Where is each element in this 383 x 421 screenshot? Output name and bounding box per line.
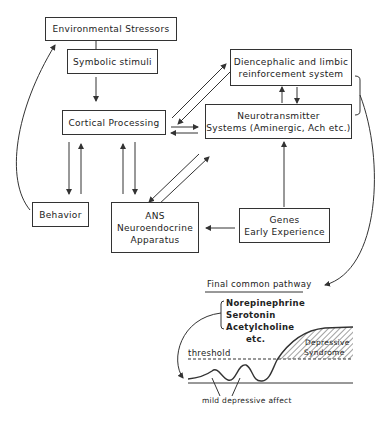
cortical-processing-box: Cortical Processing: [62, 110, 166, 135]
threshold-label: threshold: [188, 348, 231, 358]
diencephalic-label-line2: reinforcement system: [239, 68, 344, 80]
environmental-stressors-label: Environmental Stressors: [53, 23, 170, 35]
neurotransmitter-systems-box: Neurotransmitter Systems (Aminergic, Ach…: [205, 104, 352, 139]
transmitter-norepinephrine: Norepinephrine: [226, 298, 305, 308]
environmental-stressors-box: Environmental Stressors: [45, 17, 177, 41]
genes-label-line2: Early Experience: [244, 226, 325, 238]
symbolic-stimuli-label: Symbolic stimuli: [73, 56, 152, 68]
symbolic-stimuli-box: Symbolic stimuli: [67, 49, 158, 74]
ans-label-line2: Neuroendocrine: [117, 222, 193, 234]
genes-early-experience-box: Genes Early Experience: [239, 208, 330, 243]
transmitter-etc: etc.: [246, 334, 265, 344]
ans-neuroendocrine-box: ANS Neuroendocrine Apparatus: [111, 202, 199, 253]
behavior-box: Behavior: [32, 202, 89, 227]
ans-label-line3: Apparatus: [131, 234, 180, 246]
final-common-pathway-title: Final common pathway: [207, 279, 312, 289]
cortical-processing-label: Cortical Processing: [68, 117, 159, 129]
diencephalic-limbic-box: Diencephalic and limbic reinforcement sy…: [230, 49, 352, 86]
behavior-label: Behavior: [39, 209, 81, 221]
depressive-syndrome-line2: Syndrome: [304, 348, 345, 357]
transmitter-acetylcholine: Acetylcholine: [226, 322, 294, 332]
mild-depressive-affect-label: mild depressive affect: [202, 396, 292, 405]
ans-label-line1: ANS: [145, 210, 165, 222]
neurotransmitter-label-line1: Neurotransmitter: [237, 110, 319, 122]
diencephalic-label-line1: Diencephalic and limbic: [234, 56, 349, 68]
transmitter-serotonin: Serotonin: [226, 310, 276, 320]
genes-label-line1: Genes: [270, 214, 300, 226]
neurotransmitter-label-line2: Systems (Aminergic, Ach etc.): [206, 122, 350, 134]
depressive-syndrome-line1: Depressive: [305, 338, 350, 347]
